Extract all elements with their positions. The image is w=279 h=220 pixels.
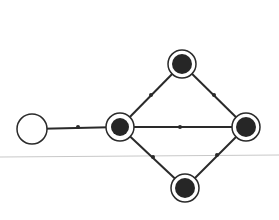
node-filled-core-icon bbox=[111, 118, 129, 136]
edges-layer bbox=[32, 64, 246, 188]
node-filled-core-icon bbox=[236, 117, 256, 137]
edge-midpoint-marker-icon bbox=[215, 153, 219, 157]
node-bottom bbox=[171, 174, 199, 202]
edge-midpoint-marker-icon bbox=[151, 155, 155, 159]
node-top bbox=[168, 50, 196, 78]
edge-midpoint-marker-icon bbox=[149, 93, 153, 97]
node-filled-core-icon bbox=[172, 54, 192, 74]
horizontal-guide-line bbox=[0, 155, 279, 157]
node-empty bbox=[17, 114, 47, 144]
edge-midpoint-marker-icon bbox=[212, 93, 216, 97]
empty-node-circle bbox=[17, 114, 47, 144]
edge-hub-right bbox=[120, 125, 246, 129]
graph-diagram-svg bbox=[0, 0, 279, 220]
node-filled-core-icon bbox=[175, 178, 195, 198]
node-hub bbox=[106, 113, 134, 141]
edge-midpoint-marker-icon bbox=[178, 125, 182, 129]
edge-midpoint-marker-icon bbox=[76, 125, 80, 129]
graph-diagram bbox=[0, 0, 279, 220]
node-right bbox=[232, 113, 260, 141]
